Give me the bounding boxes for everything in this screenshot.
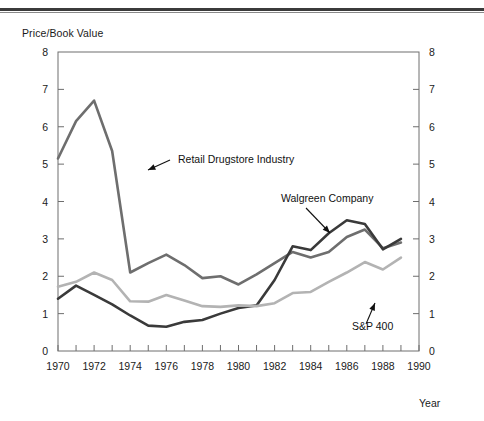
y-axis-labels-left: 012345678 [42, 46, 48, 357]
y-tick-label-right: 1 [429, 308, 435, 320]
series-line-s-p-400 [58, 258, 401, 307]
y-tick-label-right: 7 [429, 83, 435, 95]
y-tick-label-left: 4 [42, 196, 48, 208]
y-tick-label-right: 3 [429, 233, 435, 245]
y-axis-labels-right: 012345678 [429, 46, 435, 357]
x-tick-label: 1986 [335, 360, 359, 372]
x-tick-label: 1976 [155, 360, 179, 372]
x-tick-label: 1974 [119, 360, 143, 372]
x-tick-label: 1990 [407, 360, 431, 372]
series-annotations: Retail Drugstore IndustryWalgreen Compan… [148, 153, 393, 332]
y-tick-label-left: 0 [42, 345, 48, 357]
y-tick-label-right: 2 [429, 270, 435, 282]
annotation-label-s-p-400: S&P 400 [352, 320, 393, 332]
y-tick-label-right: 0 [429, 345, 435, 357]
x-tick-label: 1972 [82, 360, 106, 372]
annotation-arrowhead-s-p-400 [369, 303, 375, 311]
y-tick-label-left: 5 [42, 158, 48, 170]
y-tick-label-right: 6 [429, 121, 435, 133]
x-tick-label: 1980 [227, 360, 251, 372]
y-tick-label-right: 8 [429, 46, 435, 58]
x-axis-labels: 1970197219741976197819801982198419861988… [46, 360, 431, 372]
x-tick-label: 1982 [263, 360, 287, 372]
y-tick-label-left: 1 [42, 308, 48, 320]
annotation-label-retail-drugstore-industry: Retail Drugstore Industry [178, 153, 295, 165]
chart-plot-area: 012345678 012345678 19701972197419761978… [0, 0, 484, 421]
annotation-label-walgreen-company: Walgreen Company [281, 192, 374, 204]
y-tick-label-left: 2 [42, 270, 48, 282]
data-series-lines [58, 101, 401, 327]
y-tick-label-left: 7 [42, 83, 48, 95]
x-tick-label: 1978 [191, 360, 215, 372]
x-tick-label: 1988 [371, 360, 395, 372]
chart-figure: Price/Book Value Year 012345678 01234567… [0, 0, 484, 421]
y-tick-label-right: 4 [429, 196, 435, 208]
x-tick-label: 1984 [299, 360, 323, 372]
axis-ticks [58, 89, 419, 351]
annotation-arrowhead-retail-drugstore-industry [148, 164, 156, 170]
x-tick-label: 1970 [46, 360, 70, 372]
y-tick-label-left: 3 [42, 233, 48, 245]
y-tick-label-left: 6 [42, 121, 48, 133]
y-tick-label-right: 5 [429, 158, 435, 170]
y-tick-label-left: 8 [42, 46, 48, 58]
